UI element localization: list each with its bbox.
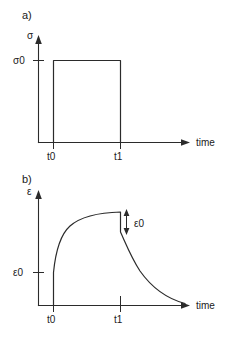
epsilon0-arrowhead-down (124, 228, 130, 235)
panel-b-x-axis-label: time (196, 300, 215, 311)
panel-a-label: a) (22, 9, 32, 21)
panel-a-y-tick-label: σ0 (13, 55, 25, 66)
panel-b-epsilon0-annotation: ε0 (124, 209, 145, 235)
panel-b-strain-curve (54, 212, 186, 306)
epsilon0-arrowhead-up (124, 209, 130, 216)
creep-recovery-figure: a) σ time σ0 t0 t1 b) (0, 0, 237, 338)
panel-b-y-axis-label: ε (27, 186, 32, 197)
panel-a-x-tick-label-t1: t1 (114, 151, 123, 162)
panel-a-y-axis-label: σ (27, 30, 34, 41)
epsilon0-annotation-label: ε0 (134, 218, 144, 229)
panel-a-y-axis-arrowhead (35, 35, 42, 44)
panel-a-stress-pulse-curve (54, 61, 121, 143)
panel-b-label: b) (22, 173, 32, 185)
panel-a-x-tick-label-t0: t0 (47, 151, 56, 162)
panel-b-y-tick-label: ε0 (13, 267, 23, 278)
panel-b-x-tick-label-t0: t0 (47, 314, 56, 325)
panel-a-x-axis-label: time (196, 137, 215, 148)
panel-a: a) σ time σ0 t0 t1 (13, 9, 215, 162)
panel-b: b) ε time ε0 ε0 t0 (13, 173, 215, 325)
figure-canvas: a) σ time σ0 t0 t1 b) (0, 0, 237, 338)
panel-b-y-axis-arrowhead (35, 190, 42, 199)
panel-a-x-axis-arrowhead (181, 139, 190, 146)
panel-b-x-tick-label-t1: t1 (114, 314, 123, 325)
